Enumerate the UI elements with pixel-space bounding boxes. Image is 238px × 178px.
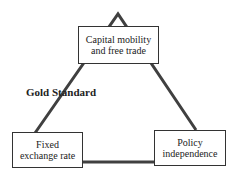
node-capital-mobility-line2: and free trade <box>86 45 151 56</box>
node-capital-mobility: Capital mobility and free trade <box>78 26 159 64</box>
node-fixed-exchange-rate-line2: exchange rate <box>20 150 75 161</box>
gold-standard-label: Gold Standard <box>26 86 96 98</box>
node-policy-independence: Policy independence <box>154 130 226 166</box>
node-capital-mobility-line1: Capital mobility <box>86 34 151 45</box>
node-fixed-exchange-rate-line1: Fixed <box>20 139 75 150</box>
node-fixed-exchange-rate: Fixed exchange rate <box>12 132 83 168</box>
node-policy-independence-line1: Policy <box>163 137 218 148</box>
node-policy-independence-line2: independence <box>163 148 218 159</box>
